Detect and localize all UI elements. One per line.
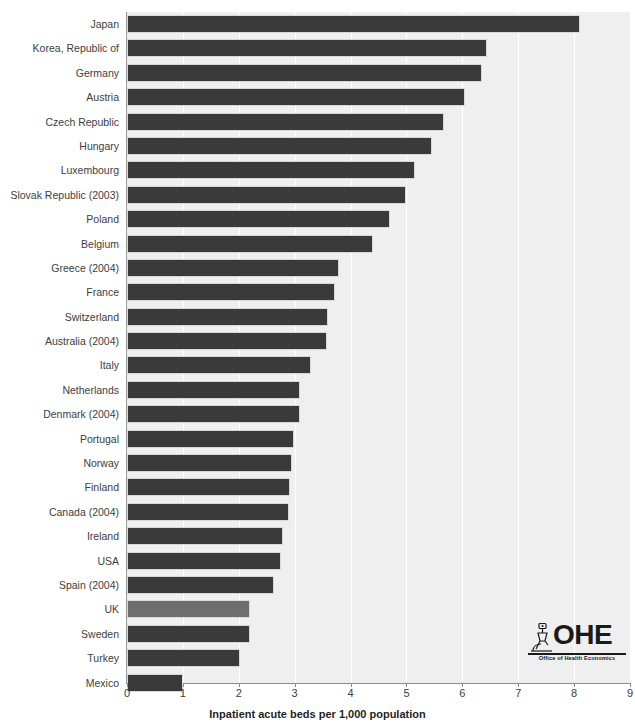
bar-row: Switzerland <box>0 305 635 329</box>
x-tick-label: 8 <box>559 687 589 699</box>
category-label: USA <box>97 549 119 573</box>
bar-chart: JapanKorea, Republic ofGermanyAustriaCze… <box>0 0 635 727</box>
bar-row: Spain (2004) <box>0 573 635 597</box>
ohe-logo: OHE Office of Health Economics <box>527 620 627 668</box>
category-label: Austria <box>86 85 119 109</box>
x-tick-label: 1 <box>168 687 198 699</box>
category-label: Poland <box>86 207 119 231</box>
category-label: Canada (2004) <box>49 500 119 524</box>
bar <box>127 430 294 448</box>
bar-row: Czech Republic <box>0 110 635 134</box>
ohe-tagline: Office of Health Economics <box>527 655 627 661</box>
x-axis-title: Inpatient acute beds per 1,000 populatio… <box>0 708 635 720</box>
bar <box>127 15 580 33</box>
x-tick-label: 9 <box>615 687 635 699</box>
category-label: Ireland <box>87 524 119 548</box>
x-tick-label: 2 <box>224 687 254 699</box>
category-label: Italy <box>100 353 119 377</box>
bar <box>127 39 487 57</box>
x-tick-label: 0 <box>112 687 142 699</box>
category-label: Germany <box>76 61 119 85</box>
bar-row: Mexico <box>0 671 635 695</box>
bar-row: France <box>0 280 635 304</box>
bar-row: Poland <box>0 207 635 231</box>
category-label: Portugal <box>80 427 119 451</box>
category-label: Turkey <box>87 646 119 670</box>
bar-row: Portugal <box>0 427 635 451</box>
bar-row: UK <box>0 597 635 621</box>
x-tick-label: 3 <box>280 687 310 699</box>
bar-row: Slovak Republic (2003) <box>0 183 635 207</box>
bar <box>127 356 311 374</box>
bar-row: Italy <box>0 353 635 377</box>
category-label: Belgium <box>81 232 119 256</box>
category-label: Sweden <box>81 622 119 646</box>
bar <box>127 552 281 570</box>
bar-row: USA <box>0 549 635 573</box>
category-label: Australia (2004) <box>45 329 119 353</box>
ohe-wordmark: OHE <box>553 620 612 650</box>
bar-row: Denmark (2004) <box>0 402 635 426</box>
category-label: Netherlands <box>62 378 119 402</box>
bar <box>127 161 415 179</box>
x-tick-label: 5 <box>391 687 421 699</box>
bar-row: Austria <box>0 85 635 109</box>
bar-row: Luxembourg <box>0 158 635 182</box>
bar <box>127 186 406 204</box>
bar <box>127 113 444 131</box>
bar <box>127 503 289 521</box>
bar-rows: JapanKorea, Republic ofGermanyAustriaCze… <box>0 12 635 695</box>
bar <box>127 478 290 496</box>
category-label: Luxembourg <box>61 158 119 182</box>
bar <box>127 527 283 545</box>
bar-row: Netherlands <box>0 378 635 402</box>
bar-row: Canada (2004) <box>0 500 635 524</box>
x-tick-label: 6 <box>447 687 477 699</box>
bar-row: Japan <box>0 12 635 36</box>
bar <box>127 576 274 594</box>
bar-row: Norway <box>0 451 635 475</box>
bar <box>127 405 300 423</box>
bar <box>127 308 328 326</box>
category-label: France <box>86 280 119 304</box>
bar <box>127 649 240 667</box>
x-tick-label: 7 <box>503 687 533 699</box>
category-label: Czech Republic <box>45 110 119 134</box>
bar-row: Korea, Republic of <box>0 36 635 60</box>
bar <box>127 64 482 82</box>
bar <box>127 625 250 643</box>
bar <box>127 235 373 253</box>
bar <box>127 259 339 277</box>
bar <box>127 332 327 350</box>
category-label: Hungary <box>79 134 119 158</box>
x-tick-label: 4 <box>336 687 366 699</box>
category-label: Denmark (2004) <box>43 402 119 426</box>
bar-row: Belgium <box>0 232 635 256</box>
category-label: UK <box>104 597 119 621</box>
bar-row: Hungary <box>0 134 635 158</box>
category-label: Slovak Republic (2003) <box>10 183 119 207</box>
category-label: Spain (2004) <box>59 573 119 597</box>
category-label: Norway <box>83 451 119 475</box>
bar-row: Ireland <box>0 524 635 548</box>
bar-row: Finland <box>0 475 635 499</box>
category-label: Switzerland <box>65 305 119 329</box>
category-label: Korea, Republic of <box>33 36 119 60</box>
category-label: Japan <box>90 12 119 36</box>
bar <box>127 283 335 301</box>
category-label: Finland <box>85 475 119 499</box>
bar <box>127 210 390 228</box>
bar-row: Australia (2004) <box>0 329 635 353</box>
bar-row: Germany <box>0 61 635 85</box>
bar <box>127 381 300 399</box>
bar-row: Greece (2004) <box>0 256 635 280</box>
category-label: Greece (2004) <box>51 256 119 280</box>
bar <box>127 600 250 618</box>
bar <box>127 88 465 106</box>
bar <box>127 454 292 472</box>
bar <box>127 137 432 155</box>
